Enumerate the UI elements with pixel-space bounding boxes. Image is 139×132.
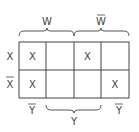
cell-1-3: X <box>112 79 119 90</box>
label-x: X <box>7 51 14 62</box>
label-w-bar: W <box>96 16 106 27</box>
label-x-bar: X <box>7 79 14 90</box>
label-y-bar-left: Y <box>28 105 36 116</box>
label-y: Y <box>70 116 78 127</box>
karnaugh-map: W W X X X X X X Y Y Y <box>0 0 139 132</box>
brace-w <box>19 28 74 36</box>
brace-y <box>46 105 101 113</box>
label-w: W <box>42 16 52 27</box>
cell-0-2: X <box>84 51 91 62</box>
cell-1-0: X <box>29 79 36 90</box>
label-y-bar-right: Y <box>115 105 123 116</box>
cell-0-0: X <box>29 51 36 62</box>
brace-w-bar <box>74 28 129 36</box>
